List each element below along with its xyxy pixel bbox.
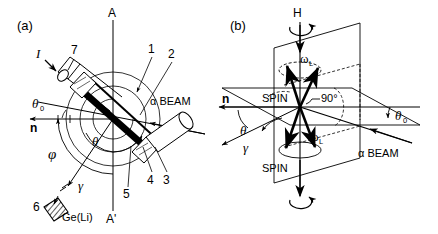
alpha-beam-arrow-b bbox=[370, 129, 412, 143]
figure-svg: (a) A A' n α BEAM bbox=[0, 0, 438, 234]
ge-li-label: Ge(Li) bbox=[62, 211, 93, 223]
theta-zero-arc-b bbox=[388, 107, 390, 118]
phi-label-a: φ bbox=[48, 146, 56, 162]
theta-zero-subscript-a: 0 bbox=[40, 104, 44, 113]
axis-label-A-prime: A' bbox=[106, 212, 116, 226]
part-number-1: 1 bbox=[148, 42, 155, 56]
current-arrow bbox=[45, 60, 56, 71]
phi-angle-arc bbox=[58, 119, 113, 174]
axis-label-A: A bbox=[108, 6, 116, 20]
detector-part-3 bbox=[146, 110, 196, 152]
part-number-5: 5 bbox=[123, 187, 130, 201]
figure-container: (a) A A' n α BEAM bbox=[0, 0, 438, 234]
right-angle-arc bbox=[306, 99, 312, 104]
larmor-subscript-upper: L bbox=[309, 59, 313, 68]
theta-zero-symbol-b: θ bbox=[395, 108, 402, 123]
theta-zero-symbol-a: θ bbox=[32, 96, 39, 111]
part-number-2: 2 bbox=[168, 47, 175, 61]
current-label-I: I bbox=[35, 46, 41, 61]
gamma-label-a: γ bbox=[78, 178, 84, 193]
spin-label-upper: SPIN bbox=[262, 92, 288, 104]
theta-zero-label-b: θ 0 bbox=[395, 108, 407, 125]
spin-vector-upper-left bbox=[287, 66, 300, 107]
part-number-4: 4 bbox=[147, 173, 154, 187]
theta-zero-subscript-b: 0 bbox=[403, 116, 407, 125]
larmor-label-lower: ω L bbox=[310, 129, 323, 146]
part-number-7: 7 bbox=[71, 43, 78, 57]
leader-1 bbox=[137, 57, 152, 92]
plane-intersection-upper bbox=[284, 64, 360, 85]
panel-b-label: (b) bbox=[230, 18, 246, 33]
alpha-beam-label-a: α BEAM bbox=[150, 95, 191, 107]
leader-2 bbox=[140, 62, 172, 115]
leader-5 bbox=[128, 146, 131, 187]
normal-vector-label-b: n bbox=[222, 92, 229, 106]
spin-vector-upper-right bbox=[300, 68, 318, 107]
panel-b: (b) n θ γ α BEAM θ 0 bbox=[219, 6, 420, 209]
theta-zero-label-a: θ 0 bbox=[32, 96, 44, 113]
alpha-beam-label-b: α BEAM bbox=[358, 147, 399, 159]
theta0-angle-arc-a bbox=[62, 110, 66, 118]
gamma-label-b: γ bbox=[243, 140, 249, 155]
larmor-label-upper: ω L bbox=[300, 51, 313, 68]
panel-a-label: (a) bbox=[17, 18, 33, 33]
target-assembly bbox=[55, 57, 196, 163]
part-number-3: 3 bbox=[163, 173, 170, 187]
gamma-squiggle-a bbox=[60, 184, 68, 191]
theta-label-a: θ bbox=[92, 134, 99, 149]
larmor-symbol-upper: ω bbox=[300, 51, 309, 66]
normal-vector-label-a: n bbox=[30, 121, 37, 135]
leader-3 bbox=[155, 147, 167, 172]
precession-arrow-bottom bbox=[290, 197, 312, 209]
part-number-6: 6 bbox=[33, 200, 40, 214]
gamma-ray-line-a bbox=[68, 119, 113, 186]
spin-label-lower: SPIN bbox=[262, 162, 288, 174]
right-angle-label: 90° bbox=[321, 92, 338, 104]
larmor-symbol-lower: ω bbox=[310, 129, 319, 144]
larmor-subscript-lower: L bbox=[319, 137, 323, 146]
precession-arrow-top bbox=[290, 24, 312, 36]
magnetic-field-label-H: H bbox=[293, 6, 302, 20]
panel-a: (a) A A' n α BEAM bbox=[17, 6, 205, 226]
